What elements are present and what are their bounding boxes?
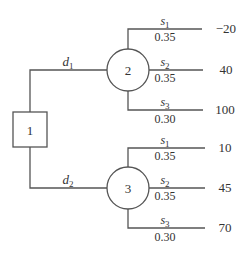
probability-label: 0.35 bbox=[155, 30, 176, 44]
state-label: s1 bbox=[160, 14, 169, 30]
payoff-value: 45 bbox=[219, 180, 232, 195]
probability-label: 0.35 bbox=[155, 149, 176, 163]
payoff-value: 100 bbox=[215, 102, 235, 117]
decision-label-d1: d1 bbox=[63, 54, 74, 71]
decision-node-1-label: 1 bbox=[27, 123, 34, 138]
chance-node-2-label: 2 bbox=[125, 63, 132, 78]
probability-label: 0.30 bbox=[155, 230, 176, 244]
probability-label: 0.35 bbox=[155, 71, 176, 85]
payoff-value: 10 bbox=[219, 140, 232, 155]
state-label: s3 bbox=[160, 213, 170, 229]
decision-branch-d1 bbox=[30, 70, 107, 112]
payoff-value: 70 bbox=[219, 220, 232, 235]
chance-node-3-label: 3 bbox=[125, 181, 132, 196]
probability-label: 0.35 bbox=[155, 189, 176, 203]
probability-label: 0.30 bbox=[155, 112, 176, 126]
state-label: s2 bbox=[160, 55, 169, 71]
decision-tree-diagram: 1 2 3 d1 d2 s1 0.35 −20 s2 0.35 40 s3 0.… bbox=[0, 0, 242, 253]
state-label: s1 bbox=[160, 133, 169, 149]
payoff-value: −20 bbox=[216, 21, 236, 36]
decision-label-d2: d2 bbox=[63, 172, 74, 189]
state-label: s2 bbox=[160, 173, 169, 189]
state-label: s3 bbox=[160, 95, 170, 111]
payoff-value: 40 bbox=[220, 62, 233, 77]
